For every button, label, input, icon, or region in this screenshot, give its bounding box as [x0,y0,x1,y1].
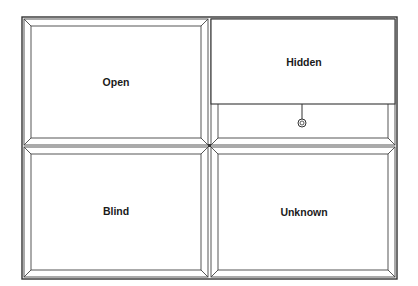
pane-label-blind: Blind [103,205,129,217]
johari-window-diagram: Open Hidden Blind Unknown [0,0,418,286]
pane-label-unknown: Unknown [280,206,327,218]
pane-label-open: Open [103,76,130,88]
pane-label-hidden: Hidden [286,56,322,68]
shade-pull-ring-icon [298,119,306,127]
mullion-joint [208,144,211,147]
window-shade [211,19,395,119]
